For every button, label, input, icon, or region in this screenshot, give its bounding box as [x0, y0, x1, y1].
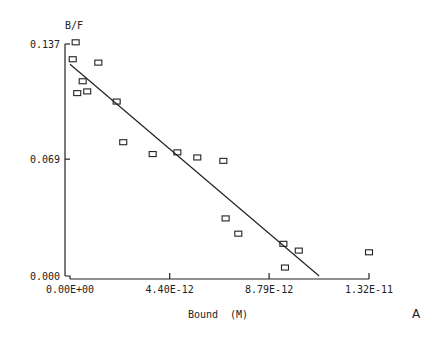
data-points	[69, 40, 372, 270]
data-point-marker	[95, 60, 102, 65]
y-tick-label: 0.069	[30, 154, 60, 165]
y-tick-label: 0.000	[30, 271, 60, 282]
x-tick-label: 0.00E+00	[46, 284, 94, 295]
regression-line	[70, 64, 319, 276]
data-point-marker	[74, 91, 81, 96]
data-point-marker	[222, 216, 229, 221]
data-point-marker	[69, 57, 76, 62]
panel-label: A	[412, 307, 421, 321]
axis-corner	[65, 276, 70, 279]
data-point-marker	[295, 248, 302, 253]
data-point-marker	[366, 250, 373, 255]
scatter-chart: 0.0000.0690.1370.00E+004.40E-128.79E-121…	[0, 0, 438, 340]
data-point-marker	[149, 152, 156, 157]
data-point-marker	[84, 89, 91, 94]
y-tick-label: 0.137	[30, 39, 60, 50]
data-point-marker	[281, 265, 288, 270]
data-point-marker	[220, 158, 227, 163]
data-point-marker	[79, 79, 86, 84]
axes: 0.0000.0690.1370.00E+004.40E-128.79E-121…	[30, 39, 393, 295]
data-point-marker	[194, 155, 201, 160]
x-tick-label: 4.40E-12	[146, 284, 194, 295]
x-tick-label: 8.79E-12	[245, 284, 293, 295]
data-point-marker	[120, 140, 127, 145]
x-tick-label: 1.32E-11	[345, 284, 393, 295]
x-axis-label: Bound (M)	[188, 309, 248, 320]
y-axis-label: B/F	[65, 20, 83, 31]
data-point-marker	[72, 40, 79, 45]
data-point-marker	[235, 231, 242, 236]
